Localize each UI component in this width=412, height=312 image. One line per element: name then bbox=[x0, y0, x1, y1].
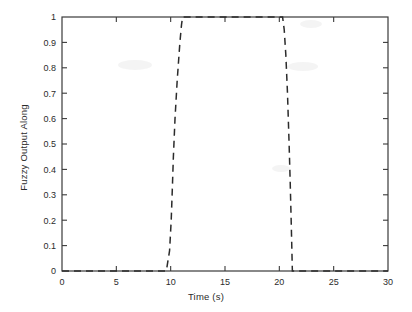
y-tick-label: 0.6 bbox=[43, 114, 56, 124]
y-axis-label: Fuzzy Output Along bbox=[18, 73, 29, 223]
y-tick-marks bbox=[62, 42, 388, 245]
y-tick-label: 0 bbox=[51, 266, 56, 276]
plot-area: 051015202530 00.10.20.30.40.50.60.70.80.… bbox=[0, 0, 412, 312]
series-line-fuzzy-output bbox=[62, 17, 388, 271]
figure-canvas: 051015202530 00.10.20.30.40.50.60.70.80.… bbox=[0, 0, 412, 312]
x-tick-label: 25 bbox=[329, 277, 339, 287]
x-tick-label: 0 bbox=[59, 277, 64, 287]
y-tick-label: 0.8 bbox=[43, 63, 56, 73]
y-tick-label: 0.9 bbox=[43, 38, 56, 48]
axes-box bbox=[62, 17, 388, 271]
y-tick-labels: 00.10.20.30.40.50.60.70.80.91 bbox=[43, 12, 56, 276]
y-tick-label: 1 bbox=[51, 12, 56, 22]
x-tick-label: 20 bbox=[274, 277, 284, 287]
data-series-group bbox=[62, 17, 388, 271]
x-tick-marks bbox=[116, 17, 333, 271]
x-tick-label: 10 bbox=[166, 277, 176, 287]
y-tick-label: 0.5 bbox=[43, 139, 56, 149]
y-tick-label: 0.2 bbox=[43, 216, 56, 226]
x-tick-label: 30 bbox=[383, 277, 393, 287]
y-tick-label: 0.3 bbox=[43, 190, 56, 200]
y-tick-label: 0.4 bbox=[43, 165, 56, 175]
x-axis-label: Time (s) bbox=[0, 291, 412, 302]
y-tick-label: 0.7 bbox=[43, 89, 56, 99]
x-tick-labels: 051015202530 bbox=[59, 277, 393, 287]
axes-frame bbox=[62, 17, 388, 271]
x-tick-label: 5 bbox=[114, 277, 119, 287]
y-tick-label: 0.1 bbox=[43, 241, 56, 251]
x-tick-label: 15 bbox=[220, 277, 230, 287]
